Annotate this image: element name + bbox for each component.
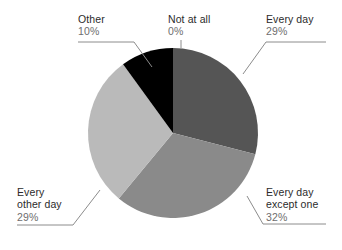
- callout-label-every-day: Every day 29%: [266, 13, 314, 38]
- callout-category-other: Other: [78, 13, 105, 25]
- callout-label-every-other-day: Every other day 29%: [17, 186, 62, 223]
- callout-category-every-other-day-line2: other day: [17, 198, 62, 210]
- callout-category-every-day-except-one-line1: Every day: [266, 186, 318, 198]
- pie-slices: [88, 48, 258, 218]
- callout-percent-not-at-all: 0%: [168, 25, 210, 37]
- callout-label-not-at-all: Not at all 0%: [168, 13, 210, 38]
- callout-percent-every-day: 29%: [266, 25, 314, 37]
- callout-percent-every-other-day: 29%: [17, 211, 62, 223]
- callout-percent-every-day-except-one: 32%: [266, 211, 318, 223]
- pie-chart: Other 10% Not at all 0% Every day 29% Ev…: [0, 0, 342, 250]
- callout-category-every-other-day-line1: Every: [17, 186, 62, 198]
- callout-label-every-day-except-one: Every day except one 32%: [266, 186, 318, 223]
- callout-label-other: Other 10%: [78, 13, 105, 38]
- callout-category-every-day: Every day: [266, 13, 314, 25]
- callout-category-every-day-except-one-line2: except one: [266, 198, 318, 210]
- callout-percent-other: 10%: [78, 25, 105, 37]
- leader-line-every-day: [243, 42, 326, 74]
- callout-category-not-at-all: Not at all: [168, 13, 210, 25]
